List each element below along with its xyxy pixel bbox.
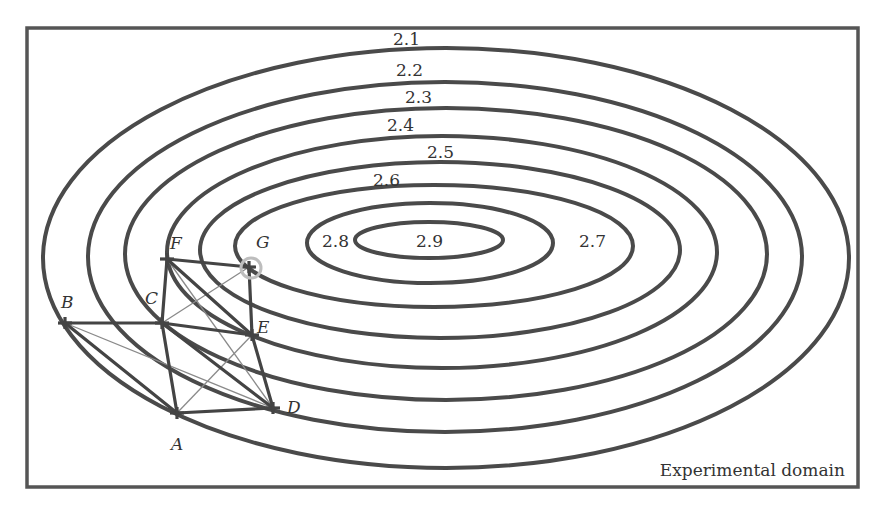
vertex-label-F: F: [169, 233, 183, 253]
contour-label: 2.4: [387, 115, 414, 135]
vertex-label-C: C: [145, 288, 158, 308]
edge-B-A: [65, 323, 177, 413]
contour-label: 2.6: [373, 170, 400, 190]
contour-label: 2.5: [427, 142, 454, 162]
simplex-contour-diagram: 2.12.22.32.42.52.62.82.92.7 ABCDEFG Expe…: [0, 0, 880, 513]
edge-F-C: [162, 259, 167, 323]
vertex-label-E: E: [256, 317, 270, 337]
contour-label: 2.8: [322, 231, 349, 251]
vertex-label-G: G: [256, 232, 270, 252]
simplex-thin-edges: [65, 259, 273, 413]
vertex-label-D: D: [286, 397, 301, 417]
experimental-domain-label: Experimental domain: [660, 460, 845, 480]
edge-F-G: [167, 259, 249, 267]
contour-label: 2.1: [393, 29, 420, 49]
vertex-labels: ABCDEFG: [60, 232, 301, 454]
vertex-label-A: A: [169, 434, 183, 454]
edge-A-D: [177, 408, 273, 413]
contour-label: 2.2: [396, 60, 423, 80]
vertex-label-B: B: [60, 292, 74, 312]
contour-label: 2.7: [579, 231, 606, 251]
contour-label: 2.3: [405, 87, 432, 107]
contour-label: 2.9: [416, 231, 443, 251]
